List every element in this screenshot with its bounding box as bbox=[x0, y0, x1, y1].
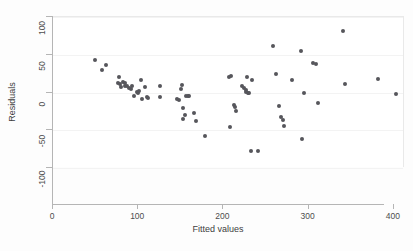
scatter-point bbox=[341, 29, 345, 33]
scatter-point bbox=[140, 97, 144, 101]
scatter-point bbox=[181, 117, 185, 121]
scatter-point bbox=[117, 75, 121, 79]
scatter-point bbox=[376, 77, 380, 81]
plot-area bbox=[52, 16, 404, 167]
scatter-point bbox=[314, 62, 318, 66]
scatter-point bbox=[282, 124, 286, 128]
residual-scatter-chart: -100-50050100 0100200300400 Residuals Fi… bbox=[0, 0, 413, 251]
scatter-point bbox=[183, 113, 187, 117]
scatter-point bbox=[132, 94, 136, 98]
scatter-point bbox=[93, 58, 97, 62]
scatter-point bbox=[316, 101, 320, 105]
x-tick-mark bbox=[222, 204, 223, 209]
scatter-point bbox=[194, 119, 198, 123]
scatter-points-layer bbox=[53, 17, 403, 167]
scatter-point bbox=[394, 92, 398, 96]
scatter-point bbox=[203, 134, 207, 138]
scatter-point bbox=[130, 84, 134, 88]
scatter-point bbox=[187, 94, 191, 98]
scatter-point bbox=[139, 78, 143, 82]
scatter-point bbox=[300, 137, 304, 141]
scatter-point bbox=[181, 106, 185, 110]
x-tick-label: 0 bbox=[39, 211, 65, 221]
y-tick-label: 0 bbox=[37, 91, 47, 117]
scatter-point bbox=[104, 63, 108, 67]
x-tick-mark bbox=[308, 204, 309, 209]
scatter-point bbox=[234, 109, 238, 113]
scatter-point bbox=[100, 68, 104, 72]
y-tick-label: 50 bbox=[37, 53, 47, 79]
scatter-point bbox=[129, 87, 133, 91]
y-axis-line bbox=[52, 16, 53, 204]
x-tick-mark bbox=[52, 204, 53, 209]
y-tick-label: 100 bbox=[37, 15, 47, 41]
scatter-point bbox=[274, 72, 278, 76]
scatter-point bbox=[250, 78, 254, 82]
x-tick-label: 100 bbox=[124, 211, 150, 221]
scatter-point bbox=[247, 91, 251, 95]
x-axis-title: Fitted values bbox=[52, 224, 384, 234]
scatter-point bbox=[179, 87, 183, 91]
scatter-point bbox=[158, 95, 162, 99]
scatter-point bbox=[277, 104, 281, 108]
scatter-point bbox=[281, 118, 285, 122]
scatter-point bbox=[146, 96, 150, 100]
scatter-point bbox=[249, 149, 253, 153]
gridline-y bbox=[53, 168, 403, 169]
scatter-point bbox=[137, 89, 141, 93]
x-tick-label: 200 bbox=[209, 211, 235, 221]
scatter-point bbox=[343, 82, 347, 86]
scatter-point bbox=[228, 125, 232, 129]
scatter-point bbox=[177, 98, 181, 102]
scatter-point bbox=[271, 44, 275, 48]
y-tick-label: -50 bbox=[37, 128, 47, 154]
scatter-point bbox=[256, 149, 260, 153]
scatter-point bbox=[180, 83, 184, 87]
scatter-point bbox=[299, 49, 303, 53]
x-tick-mark bbox=[137, 204, 138, 209]
x-tick-mark bbox=[393, 204, 394, 209]
y-axis-title-label: Residuals bbox=[7, 82, 17, 122]
x-tick-label: 300 bbox=[295, 211, 321, 221]
scatter-point bbox=[302, 91, 306, 95]
x-tick-label: 400 bbox=[380, 211, 406, 221]
y-axis-title: Residuals bbox=[5, 0, 19, 204]
scatter-point bbox=[245, 75, 249, 79]
scatter-point bbox=[290, 78, 294, 82]
y-tick-label: -100 bbox=[37, 166, 47, 192]
scatter-point bbox=[158, 84, 162, 88]
scatter-point bbox=[229, 74, 233, 78]
scatter-point bbox=[192, 111, 196, 115]
x-axis-line bbox=[52, 204, 384, 205]
scatter-point bbox=[143, 85, 147, 89]
